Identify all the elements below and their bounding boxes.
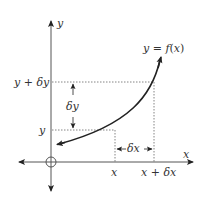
x-plus-dx-delta: δx (163, 166, 177, 179)
x-plus-dx-plus: + (147, 166, 163, 179)
curve-label: y = f(x) (142, 42, 184, 55)
curve-arrowhead-left (57, 143, 65, 145)
y-plus-dy-label: y + δy (13, 76, 50, 89)
y-plus-dy-delta: δy (36, 76, 50, 89)
x-axis-label: x (183, 148, 190, 161)
curve-arrowhead-top (158, 57, 161, 68)
y-plus-dy-plus: + (20, 76, 36, 89)
function-increment-diagram: y x y = f(x) y + δy y δy x x + δx δx (0, 0, 201, 200)
y-label: y (38, 124, 46, 137)
curve-label-eq: = (149, 42, 165, 55)
curve-label-close: ) (180, 42, 184, 55)
x-plus-dx-label: x + δx (141, 166, 177, 179)
dx-label: δx (127, 142, 141, 155)
dy-label: δy (66, 100, 80, 113)
y-axis-label: y (56, 17, 64, 30)
x-label: x (111, 166, 118, 179)
